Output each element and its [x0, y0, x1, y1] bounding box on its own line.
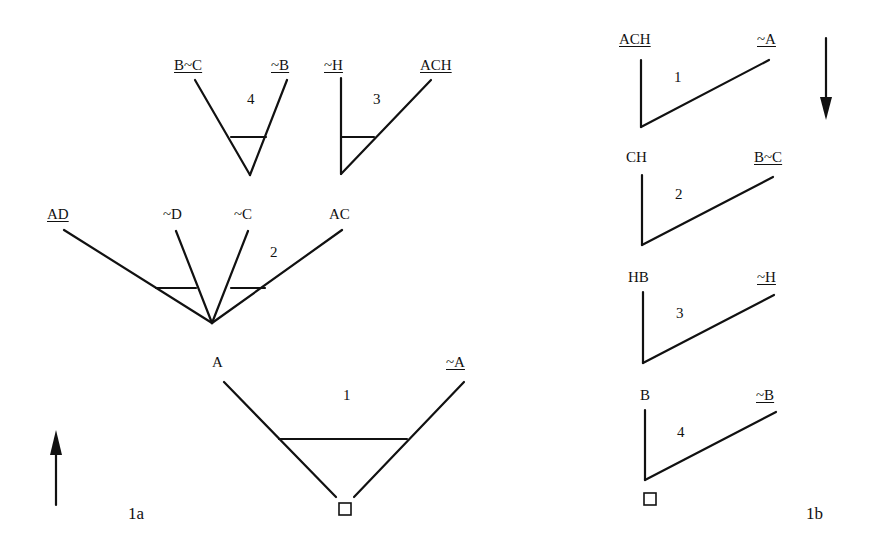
- label-ad: AD: [47, 207, 69, 222]
- step1-left-label: ACH: [619, 32, 651, 47]
- label-a: A: [212, 355, 223, 370]
- label-b-not-c: B~C: [174, 58, 202, 73]
- step4-left-label: B: [640, 388, 650, 403]
- tree1-step-number: 1: [343, 388, 351, 403]
- step4-diagonal: [645, 412, 776, 480]
- label-not-h: ~H: [324, 58, 343, 73]
- up-arrow-head: [50, 430, 62, 455]
- label-not-a: ~A: [446, 355, 465, 370]
- step4-right-label: ~B: [756, 388, 774, 403]
- label-not-d: ~D: [163, 207, 182, 222]
- figure-caption-1b: 1b: [806, 505, 823, 522]
- step4-number: 4: [677, 425, 685, 440]
- tree2-step-number: 2: [270, 245, 278, 260]
- step2-left-label: CH: [626, 150, 647, 165]
- step3-diagonal: [643, 295, 774, 363]
- tree4-right-branch: [250, 80, 287, 175]
- figure-caption-1a: 1a: [128, 505, 144, 522]
- step2-right-label: B~C: [754, 150, 782, 165]
- tree2-branch-ad: [64, 230, 212, 323]
- step1-diagonal: [641, 60, 769, 127]
- tree1-root-box: [339, 503, 351, 515]
- step3-number: 3: [676, 306, 684, 321]
- label-not-c: ~C: [234, 207, 252, 222]
- down-arrow-head: [820, 97, 832, 120]
- label-not-b: ~B: [271, 58, 289, 73]
- tree3-right-branch: [341, 80, 431, 174]
- tree4-left-branch: [195, 80, 250, 175]
- step3-left-label: HB: [628, 270, 649, 285]
- tree2-branch-notd: [176, 231, 212, 323]
- step1-number: 1: [674, 70, 682, 85]
- step2-diagonal: [642, 177, 773, 245]
- diagram-lines: [0, 0, 875, 547]
- tree4-step-number: 4: [247, 92, 255, 107]
- label-ach: ACH: [420, 58, 452, 73]
- step1-right-label: ~A: [757, 32, 776, 47]
- step2-number: 2: [675, 187, 683, 202]
- step3-right-label: ~H: [757, 270, 776, 285]
- label-ac: AC: [329, 207, 350, 222]
- step4-root-box: [644, 493, 656, 505]
- tree3-step-number: 3: [373, 92, 381, 107]
